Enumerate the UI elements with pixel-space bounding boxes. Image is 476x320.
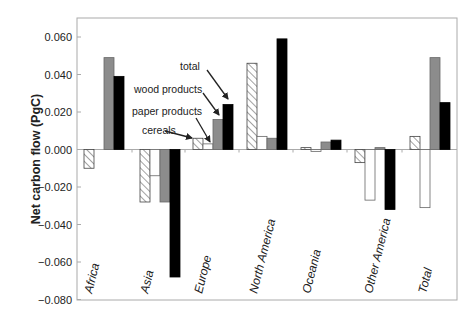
bar-wood-products-africa [104, 58, 114, 150]
y-tick-label: 0.020 [44, 106, 72, 118]
bar-paper-products-oceania [311, 150, 321, 152]
bar-cereals-total [410, 136, 420, 149]
bar-total-africa [114, 76, 124, 149]
bar-wood-products-total [430, 58, 440, 150]
arrow-wood-products [203, 93, 219, 115]
bar-wood-products-asia [160, 150, 170, 203]
y-tick-label: 0.040 [44, 69, 72, 81]
bar-total-north-america [277, 39, 287, 150]
category-label: Asia [137, 268, 157, 295]
bar-cereals-other-america [355, 150, 365, 163]
category-label: Europe [191, 253, 214, 294]
category-label: Total [415, 266, 435, 295]
category-label: North America [246, 217, 278, 295]
annotation-wood-products: wood products [133, 83, 202, 95]
y-tick-label: 0.060 [44, 31, 72, 43]
y-axis-label: Net carbon flow (PgC) [29, 94, 43, 225]
bar-paper-products-other-america [365, 150, 375, 201]
y-axis: 0.0600.0400.0200.000−0.020−0.040−0.060−0… [38, 31, 81, 306]
bar-cereals-europe [193, 138, 203, 149]
bar-cereals-north-america [247, 63, 257, 149]
bar-total-oceania [331, 140, 341, 149]
bar-paper-products-asia [150, 150, 160, 176]
bar-cereals-oceania [301, 148, 311, 150]
bar-wood-products-europe [213, 120, 223, 150]
bar-wood-products-other-america [375, 148, 385, 150]
bar-cereals-asia [140, 150, 150, 203]
zero-baseline [77, 150, 457, 153]
bar-total-other-america [385, 150, 395, 210]
category-label: Oceania [299, 248, 323, 295]
bar-total-europe [223, 105, 233, 150]
arrow-total [207, 70, 228, 99]
category-label: Africa [81, 261, 102, 295]
bar-total-total [440, 103, 450, 150]
bar-paper-products-total [420, 150, 430, 208]
category-labels: AfricaAsiaEuropeNorth AmericaOceaniaOthe… [81, 216, 435, 295]
bar-wood-products-oceania [321, 142, 331, 150]
y-tick-label: 0.000 [44, 144, 72, 156]
annotation-cereals: cereals [142, 124, 176, 136]
bar-cereals-africa [84, 150, 94, 169]
bar-paper-products-europe [203, 144, 213, 150]
y-tick-label: −0.020 [38, 181, 72, 193]
chart-canvas: 0.0600.0400.0200.000−0.020−0.040−0.060−0… [0, 0, 476, 320]
bar-paper-products-north-america [257, 136, 267, 149]
annotation-paper-products: paper products [132, 105, 202, 117]
annotation-total: total [180, 60, 200, 72]
bar-total-asia [170, 150, 180, 278]
y-tick-label: −0.040 [38, 219, 72, 231]
bar-chart: 0.0600.0400.0200.000−0.020−0.040−0.060−0… [0, 0, 476, 320]
bar-wood-products-north-america [267, 138, 277, 149]
y-tick-label: −0.080 [38, 294, 72, 306]
y-tick-label: −0.060 [38, 256, 72, 268]
category-label: Other America [361, 216, 393, 294]
